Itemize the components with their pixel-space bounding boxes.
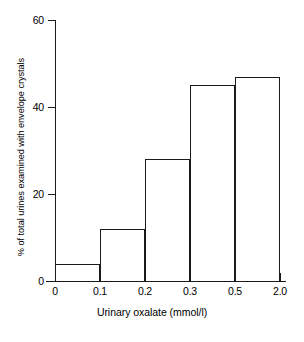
x-tick-2 <box>145 273 146 281</box>
y-tick-label-20-wrap: 20 <box>14 189 44 199</box>
x-tick-label-0: 0 <box>35 285 75 297</box>
bar-0 <box>55 264 100 283</box>
x-tick-label-1: 0.1 <box>80 285 120 297</box>
y-axis-line <box>55 20 56 282</box>
x-tick-label-4: 0.5 <box>215 285 255 297</box>
bar-3 <box>190 85 235 282</box>
x-tick-4 <box>235 273 236 281</box>
bar-1 <box>100 229 145 283</box>
y-axis-title: % of total urines examined with envelope… <box>14 26 28 288</box>
y-tick-60 <box>48 20 55 21</box>
x-tick-label-5: 2.0 <box>260 285 300 297</box>
y-tick-label-40-wrap: 40 <box>14 102 44 112</box>
y-tick-20 <box>48 194 55 195</box>
y-tick-label-40: 40 <box>14 102 44 112</box>
x-tick-5 <box>280 273 281 281</box>
bar-4 <box>235 77 280 283</box>
x-tick-3 <box>190 273 191 281</box>
y-tick-40 <box>48 107 55 108</box>
y-tick-label-60: 60 <box>14 15 44 25</box>
x-tick-label-3: 0.3 <box>170 285 210 297</box>
y-tick-label-60-wrap: 60 <box>14 15 44 25</box>
x-tick-1 <box>100 273 101 281</box>
x-axis-title: Urinary oxalate (mmol/l) <box>0 306 304 318</box>
histogram-chart: % of total urines examined with envelope… <box>0 0 304 342</box>
x-tick-0 <box>55 273 56 281</box>
y-tick-0 <box>48 281 55 282</box>
y-tick-label-20: 20 <box>14 189 44 199</box>
bar-2 <box>145 159 190 282</box>
x-tick-label-2: 0.2 <box>125 285 165 297</box>
